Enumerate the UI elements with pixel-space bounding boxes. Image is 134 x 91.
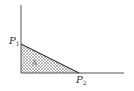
diagram-canvas — [0, 0, 134, 91]
p1-label: P1 — [9, 36, 20, 47]
p2-label: P2 — [76, 75, 87, 86]
region-a-label: A — [32, 60, 37, 67]
